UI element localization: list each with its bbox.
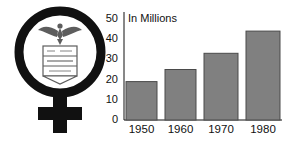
- screenshot-root: In Millions 50 40 30 20 10 0 1950 1960 1…: [0, 0, 290, 149]
- bar-1950: [126, 82, 157, 120]
- y-tick-label: 0: [112, 113, 118, 125]
- y-tick-label: 20: [106, 73, 118, 85]
- y-tick-label: 30: [106, 52, 118, 64]
- x-tick-label: 1950: [129, 123, 155, 135]
- x-tick-label: 1960: [168, 123, 194, 135]
- bar-chart-svg: In Millions 50 40 30 20 10 0 1950 1960 1…: [96, 8, 286, 149]
- y-tick-label: 50: [106, 12, 118, 24]
- x-tick-label: 1980: [250, 123, 276, 135]
- bar-1960: [165, 70, 196, 121]
- y-tick-label: 40: [106, 32, 118, 44]
- bar-chart: In Millions 50 40 30 20 10 0 1950 1960 1…: [96, 8, 286, 149]
- x-tick-label: 1970: [208, 123, 234, 135]
- bar-1980: [246, 31, 280, 120]
- bar-1970: [204, 53, 238, 120]
- y-tick-label: 10: [106, 93, 118, 105]
- eagle-head-icon: [57, 23, 62, 28]
- venus-cross-bar: [38, 107, 82, 120]
- chart-title: In Millions: [128, 12, 177, 24]
